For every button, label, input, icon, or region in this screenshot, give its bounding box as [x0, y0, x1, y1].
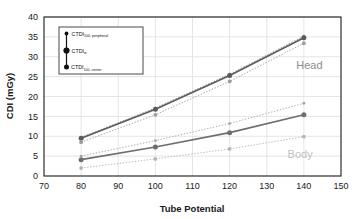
- data-point: [302, 135, 306, 139]
- data-point: [228, 147, 232, 151]
- y-tick-label: 10: [28, 131, 38, 141]
- data-point: [301, 112, 306, 117]
- x-axis-title: Tube Potential: [160, 203, 225, 214]
- data-point: [154, 139, 157, 142]
- data-point: [79, 136, 84, 141]
- data-point: [228, 79, 232, 83]
- data-point: [79, 166, 83, 170]
- legend-base-center: CTDI: [71, 64, 84, 70]
- legend-base-weighted: CTDI: [72, 48, 85, 54]
- legend-marker-weighted-icon: [63, 47, 69, 53]
- y-tick-label: 5: [33, 151, 38, 161]
- data-point: [302, 102, 305, 105]
- data-point: [153, 157, 157, 161]
- data-point: [301, 35, 306, 40]
- y-tick-label: 25: [28, 72, 38, 82]
- x-tick-label: 150: [333, 181, 348, 191]
- chart-figure: 0510152025303540 70809010011012013014015…: [0, 0, 361, 219]
- data-point: [153, 107, 158, 112]
- data-point: [228, 122, 231, 125]
- data-point: [227, 73, 232, 78]
- annotation-body: Body: [288, 148, 314, 160]
- x-tick-label: 90: [113, 181, 123, 191]
- x-tick-label: 110: [185, 181, 199, 191]
- y-tick-label: 0: [33, 171, 38, 181]
- x-tick-label: 130: [259, 181, 274, 191]
- x-axis-tick-labels: 708090100110120130140150: [39, 181, 349, 191]
- y-tick-label: 35: [28, 32, 38, 42]
- chart-legend: CTDI100, peripheral CTDIw CTDI100, cente…: [59, 27, 143, 74]
- data-point: [79, 157, 84, 162]
- x-tick-label: 100: [148, 181, 163, 191]
- annotation-head: Head: [296, 59, 322, 71]
- legend-marker-peripheral-icon: [65, 32, 69, 36]
- x-tick-label: 120: [222, 181, 237, 191]
- y-axis-title: CDI (mGy): [4, 73, 15, 119]
- legend-sub-weighted: w: [84, 51, 87, 55]
- legend-marker-center-icon: [64, 65, 69, 70]
- x-tick-label: 70: [39, 181, 49, 191]
- data-point: [79, 140, 83, 144]
- legend-sub-center: 100, center: [84, 68, 103, 72]
- data-point: [302, 41, 306, 45]
- y-tick-label: 15: [28, 112, 38, 122]
- data-point: [153, 113, 157, 117]
- ctdi-vs-tube-potential-line-chart: 0510152025303540 70809010011012013014015…: [0, 0, 361, 219]
- y-tick-label: 20: [28, 92, 38, 102]
- x-tick-label: 80: [76, 181, 86, 191]
- legend-base-peripheral: CTDI: [72, 31, 85, 37]
- y-tick-label: 30: [28, 52, 38, 62]
- legend-sub-peripheral: 100, peripheral: [84, 34, 108, 38]
- data-point: [80, 155, 83, 158]
- x-tick-label: 140: [296, 181, 311, 191]
- data-point: [227, 130, 232, 135]
- data-point: [153, 144, 158, 149]
- y-tick-label: 40: [28, 12, 38, 22]
